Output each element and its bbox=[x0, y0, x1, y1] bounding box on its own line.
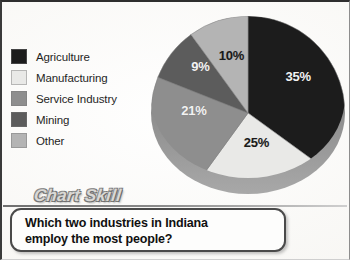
legend-item-other: Other bbox=[11, 130, 147, 151]
legend-swatch-manufacturing bbox=[11, 70, 27, 85]
pie-label-agriculture: 35% bbox=[285, 68, 310, 83]
question-line-1: Which two industries in Indiana bbox=[25, 216, 275, 232]
legend-label-service-industry: Service Industry bbox=[36, 93, 117, 105]
pie-label-service-industry: 21% bbox=[181, 103, 206, 118]
pie-label-other: 10% bbox=[219, 47, 244, 62]
legend-item-service-industry: Service Industry bbox=[11, 88, 147, 109]
legend-swatch-other bbox=[11, 133, 27, 148]
legend-label-manufacturing: Manufacturing bbox=[36, 72, 108, 84]
pie-chart-legend: Agriculture Manufacturing Service Indust… bbox=[11, 46, 147, 151]
legend-item-agriculture: Agriculture bbox=[11, 46, 147, 67]
legend-item-manufacturing: Manufacturing bbox=[11, 67, 147, 88]
legend-swatch-service-industry bbox=[11, 91, 27, 106]
pie-slices bbox=[151, 16, 345, 178]
legend-label-agriculture: Agriculture bbox=[36, 51, 90, 63]
legend-swatch-mining bbox=[11, 112, 27, 127]
pie-label-manufacturing: 25% bbox=[244, 134, 269, 149]
question-box: Which two industries in Indiana employ t… bbox=[10, 208, 286, 252]
pie-label-mining: 9% bbox=[191, 59, 209, 74]
question-line-2: employ the most people? bbox=[25, 232, 275, 248]
legend-item-mining: Mining bbox=[11, 109, 147, 130]
banner-title: Chart Skill bbox=[33, 186, 122, 206]
legend-label-mining: Mining bbox=[36, 114, 69, 126]
chart-skill-page: Agriculture Manufacturing Service Indust… bbox=[0, 0, 350, 260]
question-text: Which two industries in Indiana employ t… bbox=[25, 216, 275, 247]
legend-swatch-agriculture bbox=[11, 49, 27, 64]
legend-label-other: Other bbox=[36, 135, 64, 147]
pie-chart: 35% 25% 21% 9% 10% bbox=[150, 12, 348, 198]
pie-chart-face bbox=[151, 16, 345, 178]
